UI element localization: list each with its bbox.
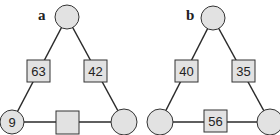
bottom-square[interactable]: [56, 111, 79, 134]
triangle-puzzle-b: b 40 35 56: [147, 6, 280, 135]
puzzle-diagram: a 9 63 42 b 40 35 56: [0, 0, 280, 135]
bottom-right-circle[interactable]: [111, 109, 137, 135]
puzzle-label: b: [186, 7, 194, 23]
bottom-square-value: 56: [208, 114, 222, 129]
bottom-right-circle[interactable]: [257, 109, 280, 135]
right-square-value: 35: [236, 64, 250, 79]
puzzle-label: a: [38, 7, 46, 23]
bottom-left-circle-value: 9: [8, 115, 15, 130]
triangle-puzzle-a: a 9 63 42: [0, 5, 137, 135]
bottom-left-circle[interactable]: [147, 109, 173, 135]
top-circle[interactable]: [55, 5, 79, 29]
top-circle[interactable]: [201, 6, 225, 30]
right-square-value: 42: [88, 64, 102, 79]
left-square-value: 63: [31, 64, 45, 79]
left-square-value: 40: [179, 64, 193, 79]
